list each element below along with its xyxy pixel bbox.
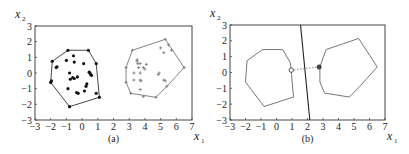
y-tick-label: 3 — [27, 21, 32, 32]
y-tick-label: −3 — [216, 115, 227, 126]
data-point-plus — [159, 46, 162, 49]
y-tick-label: 0 — [222, 67, 227, 78]
x-tick-label: 5 — [158, 121, 163, 132]
data-point-dot — [51, 60, 54, 63]
hull-outline — [320, 38, 377, 97]
data-point-plus — [137, 66, 140, 69]
data-point-plus — [139, 88, 142, 91]
y-tick-label: −2 — [21, 99, 32, 110]
data-point-dot — [83, 89, 86, 92]
chart-panel-a: −3−2−1012345673210−1−2−3x1x2(a) — [14, 7, 205, 145]
x-tick-label: 5 — [352, 121, 357, 132]
y-axis-label: x — [14, 7, 21, 21]
x-tick-label: 6 — [174, 121, 179, 132]
data-point-dot — [95, 62, 98, 65]
x-tick-label: −1 — [61, 121, 72, 132]
closest-point-open-circle — [289, 68, 293, 72]
data-point-plus — [139, 62, 142, 65]
data-point-dot — [98, 96, 101, 99]
data-point-plus — [145, 63, 148, 66]
x-tick-label: 3 — [321, 121, 326, 132]
plot-frame — [35, 26, 192, 120]
x-tick-label: 1 — [95, 121, 100, 132]
x-tick-label: 4 — [142, 121, 147, 132]
data-point-dot — [90, 74, 93, 77]
data-point-plus — [132, 71, 135, 74]
data-point-plus — [162, 51, 165, 54]
x-tick-label: −1 — [256, 121, 267, 132]
y-axis-label: x — [209, 6, 216, 20]
data-point-dot — [88, 71, 91, 74]
y-tick-label: −3 — [21, 115, 32, 126]
x-tick-label: 3 — [127, 121, 132, 132]
panel-label: (a) — [108, 133, 119, 145]
x-axis-label: x — [386, 129, 393, 143]
x-tick-label: 0 — [274, 121, 279, 132]
data-point-dot — [73, 60, 76, 63]
x-tick-label: 2 — [111, 121, 116, 132]
y-axis-label-subscript: 2 — [22, 15, 26, 23]
data-point-dot — [77, 92, 80, 95]
data-point-dot — [65, 59, 68, 62]
data-point-plus — [142, 66, 145, 69]
data-point-plus — [131, 49, 134, 52]
data-point-plus — [124, 81, 127, 84]
x-tick-label: −2 — [45, 121, 56, 132]
x-axis-label: x — [193, 129, 200, 143]
data-point-plus — [124, 66, 127, 69]
data-point-dot — [55, 65, 58, 68]
data-point-plus — [129, 92, 132, 95]
y-tick-label: 1 — [27, 52, 32, 63]
x-tick-label: 1 — [290, 121, 295, 132]
hull-outline — [246, 50, 294, 107]
class-2-series — [124, 38, 185, 99]
x-axis-label-subscript: 1 — [394, 137, 398, 145]
data-point-dot — [68, 105, 71, 108]
y-tick-label: 3 — [222, 20, 227, 31]
y-tick-label: −2 — [216, 99, 227, 110]
separating-line — [301, 25, 310, 120]
y-tick-label: 2 — [27, 36, 32, 47]
class-1-series — [49, 49, 101, 109]
data-point-plus — [143, 67, 146, 70]
x-tick-label: 4 — [336, 121, 341, 132]
y-axis-label-subscript: 2 — [217, 14, 221, 22]
x-tick-label: 6 — [367, 121, 372, 132]
data-point-plus — [139, 71, 142, 74]
data-point-plus — [170, 49, 173, 52]
data-point-plus — [132, 78, 135, 81]
y-tick-label: −1 — [216, 83, 227, 94]
y-tick-label: 0 — [27, 68, 32, 79]
data-point-dot — [95, 92, 98, 95]
y-tick-label: 2 — [222, 35, 227, 46]
closest-point-filled-circle — [317, 65, 321, 69]
y-tick-label: −1 — [21, 83, 32, 94]
plot-frame — [230, 25, 385, 120]
data-point-dot — [66, 87, 69, 90]
data-point-dot — [84, 85, 87, 88]
data-point-dot — [50, 79, 53, 82]
x-tick-label: 2 — [305, 121, 310, 132]
x-axis-label-subscript: 1 — [201, 137, 205, 145]
data-point-dot — [73, 77, 76, 80]
x-tick-label: −2 — [240, 121, 251, 132]
data-point-dot — [72, 54, 75, 57]
chart-panel-b: −3−2−1012345673210−1−2−3x1x2(b) — [209, 6, 398, 145]
data-point-dot — [76, 75, 79, 78]
convex-hull — [126, 39, 184, 97]
data-point-dot — [87, 49, 90, 52]
x-tick-label: 0 — [80, 121, 85, 132]
figure: −3−2−1012345673210−1−2−3x1x2(a)−3−2−1012… — [0, 0, 409, 154]
data-point-dot — [66, 49, 69, 52]
panel-label: (b) — [302, 133, 314, 145]
data-point-dot — [82, 62, 85, 65]
data-point-dot — [68, 71, 71, 74]
y-tick-label: 1 — [222, 51, 227, 62]
